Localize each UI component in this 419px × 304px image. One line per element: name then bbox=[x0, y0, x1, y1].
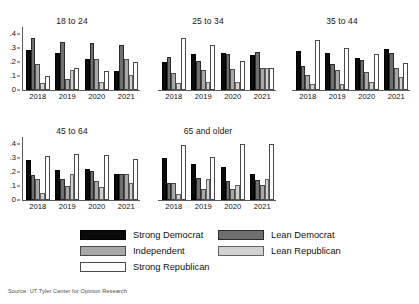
y-axis bbox=[138, 27, 156, 90]
bar-group bbox=[382, 27, 412, 90]
bar bbox=[210, 45, 215, 91]
y-tick-label: .1 bbox=[10, 182, 16, 190]
panel-45-to-64: 45 to 640.1.2.3.42018201920202021 bbox=[2, 126, 142, 212]
x-tick-label: 2020 bbox=[88, 202, 105, 211]
bar-group bbox=[82, 27, 112, 90]
y-tick-label: .4 bbox=[10, 140, 16, 148]
x-tick-label: 2018 bbox=[165, 92, 182, 101]
y-tick-mark bbox=[17, 158, 20, 159]
legend-label: Strong Democrat bbox=[133, 230, 203, 240]
y-tick-mark bbox=[17, 186, 20, 187]
x-tick-label: 2021 bbox=[118, 92, 135, 101]
y-axis: 0.1.2.3.4 bbox=[2, 27, 20, 90]
bar-group bbox=[189, 137, 219, 200]
panel-title: 45 to 64 bbox=[2, 126, 142, 137]
y-tick-mark bbox=[17, 200, 20, 201]
x-tick-label: 2019 bbox=[195, 92, 212, 101]
bar-group bbox=[248, 137, 278, 200]
x-tick-label: 2020 bbox=[358, 92, 375, 101]
bar bbox=[104, 155, 109, 200]
bar-group bbox=[159, 137, 189, 200]
y-tick-label: .4 bbox=[10, 30, 16, 38]
axis-line-baseline bbox=[158, 200, 276, 201]
legend-label: Strong Republican bbox=[133, 262, 210, 272]
legend-label: Lean Republican bbox=[271, 246, 341, 256]
y-tick-mark bbox=[17, 90, 20, 91]
y-tick-mark bbox=[17, 48, 20, 49]
y-axis bbox=[138, 137, 156, 200]
y-tick-mark bbox=[17, 76, 20, 77]
bar-group bbox=[82, 137, 112, 200]
bar bbox=[74, 154, 79, 200]
bar bbox=[240, 144, 245, 200]
bar bbox=[210, 157, 215, 200]
y-tick-label: 0 bbox=[12, 86, 16, 94]
x-tick-label: 2020 bbox=[224, 92, 241, 101]
bar bbox=[104, 71, 109, 90]
panel-title: 35 to 44 bbox=[272, 16, 412, 27]
x-tick-label: 2021 bbox=[254, 92, 271, 101]
panel-title: 65 and older bbox=[138, 126, 278, 137]
bar-group bbox=[352, 27, 382, 90]
bar bbox=[45, 76, 50, 90]
bar-group bbox=[218, 137, 248, 200]
legend-item-strong-republican: Strong Republican bbox=[80, 262, 210, 272]
legend-label: Independent bbox=[133, 246, 185, 256]
legend-swatch bbox=[218, 230, 264, 240]
panel-18-to-24: 18 to 240.1.2.3.42018201920202021 bbox=[2, 16, 142, 102]
bar bbox=[344, 48, 349, 90]
bar-group bbox=[293, 27, 323, 90]
y-tick-label: 0 bbox=[12, 196, 16, 204]
panel-35-to-44: 35 to 442018201920202021 bbox=[272, 16, 412, 102]
x-tick-label: 2020 bbox=[224, 202, 241, 211]
bar bbox=[181, 145, 186, 200]
panel-title: 18 to 24 bbox=[2, 16, 142, 27]
chart-legend: Strong DemocratLean DemocratIndependentL… bbox=[0, 228, 419, 278]
bar bbox=[240, 61, 245, 90]
axis-line-baseline bbox=[22, 200, 140, 201]
chart-panels: 18 to 240.1.2.3.4201820192020202125 to 3… bbox=[0, 0, 419, 222]
panel-title: 25 to 34 bbox=[138, 16, 278, 27]
x-tick-label: 2021 bbox=[388, 92, 405, 101]
x-tick-label: 2019 bbox=[195, 202, 212, 211]
y-tick-label: .2 bbox=[10, 168, 16, 176]
x-tick-label: 2018 bbox=[165, 202, 182, 211]
x-tick-label: 2019 bbox=[329, 92, 346, 101]
y-tick-mark bbox=[17, 144, 20, 145]
bar bbox=[181, 38, 186, 90]
plot-area bbox=[23, 137, 141, 200]
bar bbox=[74, 68, 79, 90]
y-tick-mark bbox=[17, 62, 20, 63]
bar bbox=[315, 40, 320, 90]
x-tick-label: 2021 bbox=[118, 202, 135, 211]
legend-item-strong-democrat: Strong Democrat bbox=[80, 230, 203, 240]
x-tick-label: 2019 bbox=[59, 202, 76, 211]
y-tick-label: .2 bbox=[10, 58, 16, 65]
source-note: Source: UT Tyler Center for Opinion Rese… bbox=[8, 288, 127, 294]
axis-line-baseline bbox=[158, 90, 276, 91]
legend-swatch bbox=[80, 246, 126, 256]
plot-area bbox=[159, 137, 277, 200]
y-tick-mark bbox=[17, 172, 20, 173]
x-tick-label: 2018 bbox=[299, 92, 316, 101]
legend-swatch bbox=[80, 230, 126, 240]
y-tick-label: .1 bbox=[10, 72, 16, 80]
y-tick-label: .3 bbox=[10, 44, 16, 52]
legend-swatch bbox=[80, 262, 126, 272]
bar-group bbox=[159, 27, 189, 90]
bar-group bbox=[53, 137, 83, 200]
bar-group bbox=[23, 27, 53, 90]
bar bbox=[45, 156, 50, 200]
x-tick-label: 2019 bbox=[59, 92, 76, 101]
x-tick-label: 2020 bbox=[88, 92, 105, 101]
legend-item-lean-republican: Lean Republican bbox=[218, 246, 341, 256]
legend-swatch bbox=[218, 246, 264, 256]
bar-group bbox=[53, 27, 83, 90]
bar-group bbox=[189, 27, 219, 90]
bar-group bbox=[112, 27, 142, 90]
x-tick-label: 2021 bbox=[254, 202, 271, 211]
legend-label: Lean Democrat bbox=[271, 230, 335, 240]
bar bbox=[374, 54, 379, 90]
bar-group bbox=[218, 27, 248, 90]
x-tick-label: 2018 bbox=[29, 92, 46, 101]
